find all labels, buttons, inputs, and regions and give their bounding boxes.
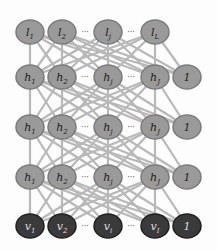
- node-label: 1: [184, 121, 191, 134]
- node-label: 1: [184, 71, 191, 84]
- ellipsis-marker: ···: [81, 173, 89, 182]
- node-hidden-3-2: hj: [94, 65, 122, 89]
- node-hidden-2-0: h1: [16, 115, 44, 139]
- neural-network-diagram: l1l2ljlL······h1h2hjhJ1······h1h2hjhJ1··…: [0, 0, 217, 250]
- node-hidden-2-1: h2: [48, 115, 76, 139]
- node-hidden-3-1: h2: [48, 65, 76, 89]
- node-output-1: l2: [48, 20, 76, 44]
- bias-node-hidden-2-4: 1: [173, 115, 201, 139]
- node-hidden-2-3: hJ: [141, 115, 169, 139]
- node-hidden-1-0: h1: [16, 165, 44, 189]
- node-label: 1: [184, 220, 191, 233]
- edge-hidden-2-1-to-hidden-1-4: [62, 127, 187, 177]
- network-graph: l1l2ljlL······h1h2hjhJ1······h1h2hjhJ1··…: [0, 0, 217, 250]
- ellipsis-marker: ···: [81, 28, 89, 37]
- bias-node-hidden-1-4: 1: [173, 165, 201, 189]
- node-input-0: v1: [16, 214, 44, 238]
- node-hidden-3-3: hJ: [141, 65, 169, 89]
- edge-hidden-3-1-to-hidden-2-4: [62, 77, 187, 127]
- ellipsis-marker: ···: [127, 73, 135, 82]
- node-output-3: lL: [141, 20, 169, 44]
- node-hidden-3-0: h1: [16, 65, 44, 89]
- ellipsis-marker: ···: [81, 123, 89, 132]
- ellipsis-marker: ···: [127, 28, 135, 37]
- bias-node-input-4: 1: [173, 214, 201, 238]
- node-output-2: lj: [94, 20, 122, 44]
- ellipsis-marker: ···: [81, 222, 89, 231]
- node-input-1: v2: [48, 214, 76, 238]
- node-label: 1: [184, 171, 191, 184]
- ellipsis-marker: ···: [127, 123, 135, 132]
- ellipsis-marker: ···: [81, 73, 89, 82]
- edge-output-1-to-hidden-3-4: [62, 32, 187, 77]
- ellipsis-marker: ···: [127, 222, 135, 231]
- node-hidden-2-2: hj: [94, 115, 122, 139]
- edge-hidden-1-1-to-input-4: [62, 177, 187, 226]
- node-hidden-1-1: h2: [48, 165, 76, 189]
- node-input-2: vi: [94, 214, 122, 238]
- ellipsis-marker: ···: [127, 173, 135, 182]
- node-input-3: vI: [141, 214, 169, 238]
- node-output-0: l1: [16, 20, 44, 44]
- bias-node-hidden-3-4: 1: [173, 65, 201, 89]
- node-hidden-1-2: hj: [94, 165, 122, 189]
- node-hidden-1-3: hJ: [141, 165, 169, 189]
